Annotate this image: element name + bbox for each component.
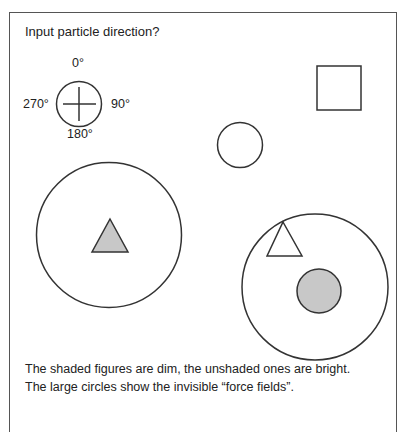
caption-line-1: The shaded figures are dim, the unshaded… [25,362,350,376]
compass-icon[interactable] [57,82,102,127]
dim-circle [297,269,341,313]
bright-small-circle [218,123,263,168]
dim-triangle [92,219,128,252]
caption-line-2: The large circles show the invisible “fo… [25,380,294,394]
bright-square [317,66,361,110]
